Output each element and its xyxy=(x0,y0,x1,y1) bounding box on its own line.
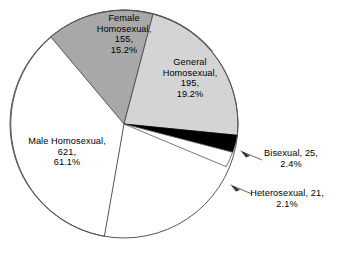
pie-label-heterosexual: Heterosexual, 21, 2.1% xyxy=(231,188,343,209)
pie-chart-graphic xyxy=(0,0,344,256)
pie-chart-figure: Female Homosexual, 155, 15.2% General Ho… xyxy=(0,0,344,256)
pie-label-bisexual: Bisexual, 25, 2.4% xyxy=(245,148,337,169)
pie-label-female-homosexual: Female Homosexual, 155, 15.2% xyxy=(86,13,162,55)
pie-label-male-homosexual: Male Homosexual, 621, 61.1% xyxy=(14,136,120,168)
pie-label-general-homosexual: General Homosexual, 195, 19.2% xyxy=(152,57,228,99)
